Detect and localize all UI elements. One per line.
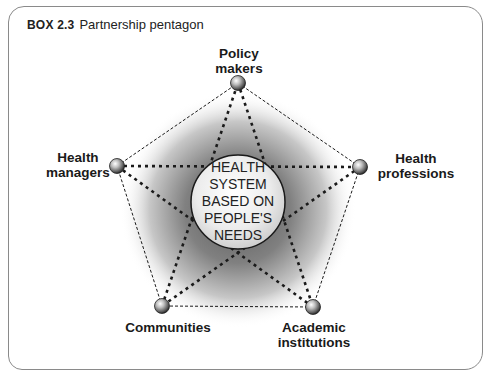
node-label-health-managers: Healthmanagers xyxy=(45,150,111,180)
node-label-academic-institutions: Academicinstitutions xyxy=(268,320,360,350)
center-label-line: NEEDS xyxy=(183,227,293,244)
center-label-line: HEALTH xyxy=(183,159,293,176)
node-label-communities: Communities xyxy=(120,320,216,335)
node-label-policy-makers: Policymakers xyxy=(213,46,265,76)
node-sphere-health-managers xyxy=(110,159,125,174)
node-label-line: managers xyxy=(45,165,111,180)
center-label: HEALTHSYSTEMBASED ONPEOPLE'SNEEDS xyxy=(183,159,293,244)
node-label-line: makers xyxy=(213,61,265,76)
node-label-health-professions: Healthprofessions xyxy=(371,151,461,181)
node-label-line: Communities xyxy=(120,320,216,335)
node-label-line: institutions xyxy=(268,335,360,350)
node-label-line: Policy xyxy=(213,46,265,61)
node-sphere-communities xyxy=(155,299,170,314)
node-label-line: Health xyxy=(45,150,111,165)
center-label-line: BASED ON xyxy=(183,193,293,210)
node-label-line: professions xyxy=(371,166,461,181)
node-sphere-health-professions xyxy=(353,160,368,175)
node-label-line: Academic xyxy=(268,320,360,335)
node-label-line: Health xyxy=(371,151,461,166)
node-sphere-policy-makers xyxy=(231,76,246,91)
center-label-line: PEOPLE'S xyxy=(183,210,293,227)
node-sphere-academic-institutions xyxy=(306,300,321,315)
center-label-line: SYSTEM xyxy=(183,176,293,193)
